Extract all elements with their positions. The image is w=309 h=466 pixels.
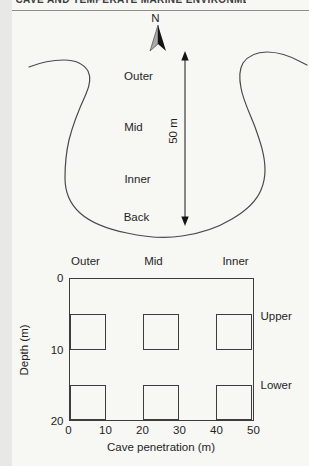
chart-column-label-mid: Mid xyxy=(124,255,184,267)
north-label: N xyxy=(148,12,164,25)
habitat-box-outer-upper xyxy=(70,314,107,349)
habitat-box-mid-lower xyxy=(143,385,180,420)
x-axis-ticks: 01020304050 xyxy=(69,424,254,437)
x-tick-label: 10 xyxy=(99,424,112,436)
y-axis-title: Depth (m) xyxy=(18,319,32,381)
x-tick-label: 40 xyxy=(210,424,223,436)
chart-row-label-lower: Lower xyxy=(261,379,305,391)
figure-page: CAVE AND TEMPERATE MARINE ENVIRONMENTS N… xyxy=(12,0,309,466)
chart-column-label-outer: Outer xyxy=(56,255,116,267)
x-tick-label: 20 xyxy=(136,424,149,436)
x-tick-label: 30 xyxy=(173,424,186,436)
scale-arrow xyxy=(181,51,188,226)
habitat-box-mid-upper xyxy=(143,314,180,349)
x-axis-title: Cave penetration (m) xyxy=(69,441,254,453)
y-tick-label: 10 xyxy=(36,344,64,356)
habitat-box-inner-upper xyxy=(216,314,253,349)
map-zone-label-inner: Inner xyxy=(113,173,163,186)
x-tick-label: 0 xyxy=(65,424,71,436)
y-tick-label: 20 xyxy=(36,415,64,427)
y-tick-label: 0 xyxy=(36,272,64,284)
map-zone-label-back: Back xyxy=(112,211,162,224)
x-tick-label: 50 xyxy=(247,424,260,436)
scale-label: 50 m xyxy=(167,109,181,153)
chart-row-label-upper: Upper xyxy=(261,310,305,322)
chart-column-label-inner: Inner xyxy=(206,255,266,267)
habitat-box-outer-lower xyxy=(70,385,107,420)
habitat-box-inner-lower xyxy=(216,385,253,420)
map-zone-label-outer: Outer xyxy=(114,70,164,83)
chart-frame xyxy=(69,278,254,421)
map-zone-label-mid: Mid xyxy=(109,121,159,134)
y-axis-ticks: 01020 xyxy=(36,278,64,421)
north-arrow-icon xyxy=(150,25,166,51)
